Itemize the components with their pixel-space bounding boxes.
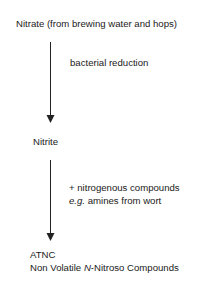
edge-label-nitrogenous-compounds: + nitrogenous compounds (69, 182, 180, 193)
node-atnc-description: Non Volatile N-Nitroso Compounds (30, 262, 179, 273)
edge-label-bacterial-reduction: bacterial reduction (70, 57, 148, 68)
edge-label-amines: e.g. amines from wort (69, 195, 161, 206)
amines-text: amines from wort (85, 195, 161, 206)
atnc-desc-n-italic: N (84, 262, 91, 273)
node-nitrite: Nitrite (33, 136, 58, 147)
eg-italic: e.g. (69, 195, 85, 206)
node-nitrate: Nitrate (from brewing water and hops) (16, 18, 177, 29)
atnc-desc-post: -Nitroso Compounds (91, 262, 179, 273)
arrow-nitrite-to-atnc (47, 160, 55, 241)
atnc-desc-pre: Non Volatile (30, 262, 84, 273)
node-atnc: ATNC (30, 249, 55, 260)
arrow-nitrate-to-nitrite (47, 42, 55, 123)
